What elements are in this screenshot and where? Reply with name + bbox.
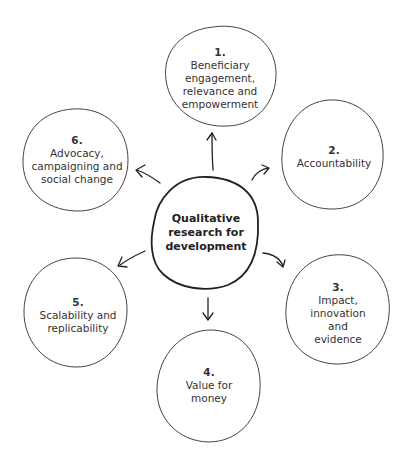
node-text-line: social change xyxy=(41,173,113,185)
node-text-line: engagement, xyxy=(185,72,255,84)
center-label-line: research for xyxy=(168,226,244,239)
arrow-to-node-4 xyxy=(203,298,213,320)
arrow-to-node-5 xyxy=(118,251,145,267)
center-label-line: Qualitative xyxy=(172,212,241,225)
node-number: 5. xyxy=(39,296,116,309)
node-text-line: Beneficiary xyxy=(190,59,249,71)
node-text-line: innovation and xyxy=(310,307,365,332)
node-label-2: 2. Accountability xyxy=(297,144,372,170)
node-text-line: empowerment xyxy=(182,98,258,110)
node-label-1: 1. Beneficiary engagement, relevance and… xyxy=(182,46,258,111)
node-number: 4. xyxy=(186,366,233,379)
node-text-line: money xyxy=(191,392,227,404)
node-text-line: Value for xyxy=(186,379,233,391)
node-text-line: Accountability xyxy=(297,157,372,169)
node-text-line: replicability xyxy=(47,322,108,334)
node-label-5: 5. Scalability and replicability xyxy=(39,296,116,335)
arrow-to-node-6 xyxy=(136,165,160,183)
node-number: 6. xyxy=(31,134,122,147)
node-label-3: 3. Impact, innovation and evidence xyxy=(303,281,374,346)
arrow-to-node-2 xyxy=(252,165,269,180)
node-label-6: 6. Advocacy, campaigning and social chan… xyxy=(31,134,122,186)
center-label-line: development xyxy=(165,240,246,253)
node-text-line: campaigning and xyxy=(31,160,122,172)
arrow-to-node-1 xyxy=(207,133,216,170)
node-text-line: relevance and xyxy=(183,85,258,97)
center-label: Qualitative research for development xyxy=(165,212,246,254)
node-text-line: Advocacy, xyxy=(50,147,104,159)
node-number: 2. xyxy=(297,144,372,157)
node-number: 3. xyxy=(303,281,374,294)
node-number: 1. xyxy=(182,46,258,59)
node-text-line: Scalability and xyxy=(39,309,116,321)
node-text-line: Impact, xyxy=(318,294,358,306)
node-text-line: evidence xyxy=(314,333,362,345)
node-label-4: 4. Value for money xyxy=(186,366,233,405)
arrow-to-node-3 xyxy=(263,253,285,267)
